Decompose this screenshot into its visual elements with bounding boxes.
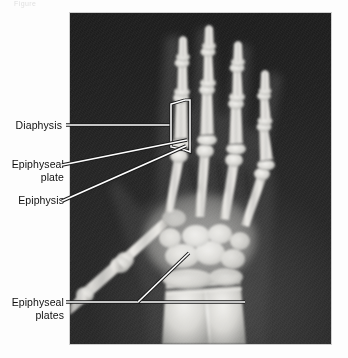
label-diaphysis: Diaphysis	[0, 119, 62, 132]
hand-xray-image	[70, 13, 331, 344]
label-epiphysis: Epiphysis	[0, 194, 64, 207]
label-epiphyseal-plates: Epiphyseal plates	[0, 296, 64, 321]
label-epiphyseal-plate: Epiphyseal plate	[0, 158, 64, 183]
caption-fragment: Figure	[14, 0, 54, 9]
hand-skeleton-graphic	[70, 13, 331, 344]
